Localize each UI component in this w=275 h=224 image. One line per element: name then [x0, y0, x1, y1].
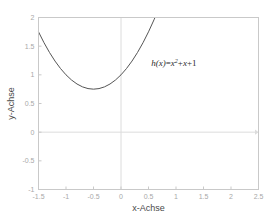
- y-tick-label: 2: [31, 14, 35, 21]
- x-tick-label: -1: [63, 193, 69, 200]
- chart-figure: -1.5-1-0.500.511.522.5 21.510.50-0.5-1 h…: [0, 0, 275, 224]
- x-tick-label: -1.5: [32, 193, 44, 200]
- y-axis-title: y-Achse: [6, 87, 16, 120]
- x-tick-label: 1.5: [199, 193, 209, 200]
- x-tick-label: 0: [119, 193, 123, 200]
- x-tick-label: 2: [229, 193, 233, 200]
- y-tick-label: 0: [31, 129, 35, 136]
- x-tick-label: 2.5: [254, 193, 264, 200]
- plot-background: [39, 18, 259, 190]
- x-tick-label: -0.5: [87, 193, 99, 200]
- x-axis-title: x-Achse: [132, 203, 165, 213]
- y-tick-label: 1.5: [25, 43, 35, 50]
- x-tick-label: 0.5: [144, 193, 154, 200]
- x-tick-label: 1: [174, 193, 178, 200]
- function-annotation: h(x)=x2+x+1: [151, 58, 196, 68]
- plot-canvas: -1.5-1-0.500.511.522.5 21.510.50-0.5-1 h…: [0, 0, 275, 224]
- y-tick-label: 0.5: [25, 100, 35, 107]
- y-tick-label: -0.5: [22, 157, 34, 164]
- y-tick-label: -1: [28, 186, 34, 193]
- y-tick-label: 1: [31, 71, 35, 78]
